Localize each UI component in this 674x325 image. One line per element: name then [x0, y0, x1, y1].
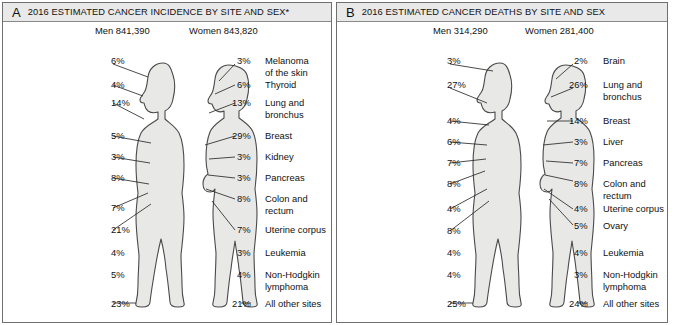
women-total-b: Women 281,400: [525, 25, 594, 36]
panel-a-rows: Melanomaof the skin6% Oral cavity4% Lung…: [3, 41, 331, 322]
panel-a-subheaders: Men 841,390 Women 843,820: [3, 25, 331, 41]
infographic-sheet: A 2016 ESTIMATED CANCER INCIDENCE BY SIT…: [0, 0, 674, 325]
panel-incidence: A 2016 ESTIMATED CANCER INCIDENCE BY SIT…: [2, 2, 332, 323]
panel-b-header: B 2016 ESTIMATED CANCER DEATHS BY SITE A…: [337, 3, 667, 22]
panel-b-subheaders: Men 314,290 Women 281,400: [337, 25, 667, 41]
panel-deaths: B 2016 ESTIMATED CANCER DEATHS BY SITE A…: [336, 2, 668, 323]
panel-a-title: 2016 ESTIMATED CANCER INCIDENCE BY SITE …: [28, 7, 290, 17]
women-total-a: Women 843,820: [189, 25, 258, 36]
panel-b-title: 2016 ESTIMATED CANCER DEATHS BY SITE AND…: [362, 7, 605, 17]
panel-b-rows: Brain3% Lung andbronchus27% Esophagus4% …: [337, 41, 667, 322]
men-total-b: Men 314,290: [433, 25, 488, 36]
men-total-a: Men 841,390: [95, 25, 150, 36]
panel-a-letter: A: [12, 5, 21, 20]
panel-b-letter: B: [346, 5, 355, 20]
panel-a-header: A 2016 ESTIMATED CANCER INCIDENCE BY SIT…: [3, 3, 331, 22]
